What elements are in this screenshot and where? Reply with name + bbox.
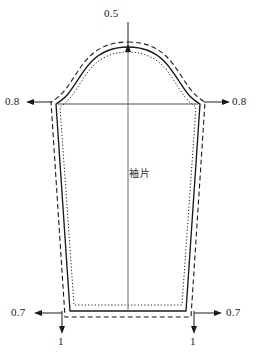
- pattern-diagram-canvas: 0.5 0.8 0.8 0.7 1 0.7 1 袖片: [0, 0, 256, 358]
- bicep-right-dimension-arrow: [204, 99, 230, 105]
- hem-left-dimension-arrows: [34, 310, 65, 334]
- bicep-right-dimension-label: 0.8: [232, 96, 246, 107]
- hem-right-horizontal-dimension-label: 0.7: [226, 307, 240, 318]
- sleeve-piece-label: 袖片: [129, 165, 151, 180]
- cap-top-dimension-label: 0.5: [104, 8, 118, 19]
- sleeve-pattern-drawing: [0, 0, 256, 358]
- hem-right-vertical-dimension-label: 1: [190, 336, 196, 347]
- hem-left-vertical-dimension-label: 1: [58, 336, 64, 347]
- hem-right-dimension-arrows: [191, 310, 222, 334]
- bicep-left-dimension-label: 0.8: [5, 96, 19, 107]
- hem-left-horizontal-dimension-label: 0.7: [11, 307, 25, 318]
- bicep-left-dimension-arrow: [26, 99, 52, 105]
